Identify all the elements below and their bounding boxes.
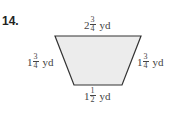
unit: yd — [100, 90, 111, 102]
denominator: 4 — [144, 62, 148, 70]
denominator: 4 — [91, 25, 95, 33]
fraction: 34 — [33, 53, 39, 70]
fraction: 34 — [143, 53, 149, 70]
unit: yd — [43, 56, 54, 68]
numerator: 3 — [34, 53, 38, 61]
denominator: 4 — [34, 62, 38, 70]
fraction: 12 — [90, 87, 96, 104]
unit: yd — [100, 19, 111, 31]
top-side-label: 2 34 yd — [84, 16, 111, 33]
left-side-label: 1 34 yd — [27, 53, 54, 70]
numerator: 1 — [91, 87, 95, 95]
numerator: 3 — [91, 16, 95, 24]
denominator: 2 — [91, 96, 95, 104]
bottom-side-label: 1 12 yd — [84, 87, 111, 104]
fraction: 34 — [90, 16, 96, 33]
numerator: 3 — [144, 53, 148, 61]
right-side-label: 1 34 yd — [137, 53, 164, 70]
unit: yd — [153, 56, 164, 68]
trapezoid-shape — [55, 36, 141, 85]
